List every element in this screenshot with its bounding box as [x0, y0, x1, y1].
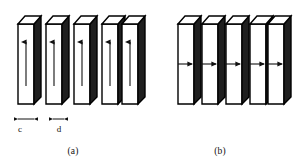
panel-caption-b: (b): [147, 146, 293, 156]
slab: [46, 16, 69, 104]
slab: [268, 16, 291, 104]
figure-root: c d (a) (b): [0, 0, 293, 168]
slab: [122, 16, 145, 104]
slab: [178, 16, 201, 104]
panel-b: [178, 16, 291, 104]
panel-caption-a: (a): [0, 146, 146, 156]
slab: [226, 16, 249, 104]
dimension-label-c: c: [13, 124, 27, 134]
slab-array-diagram: [0, 0, 293, 168]
slab: [18, 16, 41, 104]
slab: [74, 16, 97, 104]
dimension-label-d: d: [52, 124, 66, 134]
slab: [202, 16, 225, 104]
